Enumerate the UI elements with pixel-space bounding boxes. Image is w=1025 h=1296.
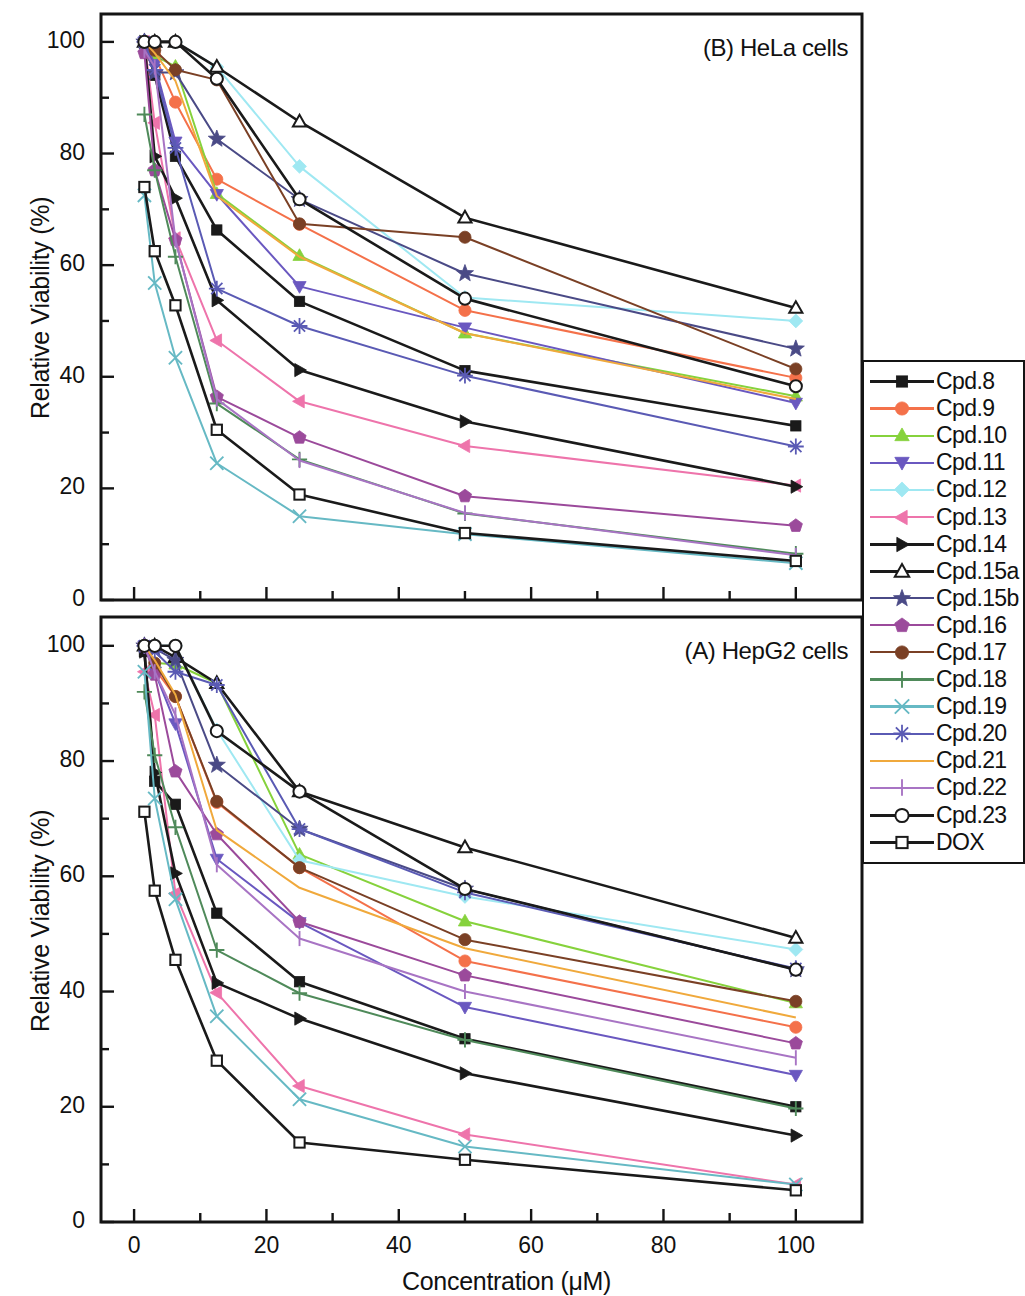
- legend-item-DOX[interactable]: DOX: [868, 829, 1023, 856]
- y-axis-tick-label: 0: [25, 1207, 85, 1234]
- x-axis-tick-label: 100: [766, 1232, 826, 1259]
- legend-marker-icon: [868, 558, 936, 585]
- legend-item-Cpd-15b[interactable]: Cpd.15b: [868, 585, 1023, 612]
- data-point: [211, 795, 223, 807]
- series-Cpd-10: [138, 639, 803, 1008]
- y-axis-tick-label: 100: [25, 631, 85, 658]
- data-point: [169, 764, 182, 777]
- legend-label: Cpd.16: [936, 612, 1007, 639]
- x-axis-title: Concentration (μM): [402, 1267, 611, 1296]
- legend-label: Cpd.12: [936, 476, 1007, 503]
- legend-marker-icon: [868, 774, 936, 801]
- legend-item-Cpd-13[interactable]: Cpd.13: [868, 503, 1023, 530]
- legend-label: DOX: [936, 829, 984, 856]
- y-axis-tick-label: 80: [25, 746, 85, 773]
- series-Cpd-17: [138, 640, 802, 1008]
- legend-marker-icon: [868, 693, 936, 720]
- data-point: [210, 1010, 223, 1023]
- data-point: [293, 862, 305, 874]
- data-point: [458, 968, 471, 981]
- legend-label: Cpd.8: [936, 368, 994, 395]
- legend-item-Cpd-20[interactable]: Cpd.20: [868, 720, 1023, 747]
- data-point: [295, 1012, 307, 1025]
- legend-label: Cpd.14: [936, 531, 1007, 558]
- panel-title-A: (A) HepG2 cells: [685, 637, 848, 665]
- series-Cpd-18: [137, 684, 804, 1116]
- legend-label: Cpd.17: [936, 639, 1007, 666]
- legend-item-Cpd-16[interactable]: Cpd.16: [868, 612, 1023, 639]
- series-line: [144, 646, 795, 970]
- data-point: [212, 1056, 222, 1066]
- y-axis-tick-label: 20: [25, 1092, 85, 1119]
- legend-marker-icon: [868, 720, 936, 747]
- legend-label: Cpd.23: [936, 802, 1007, 829]
- data-point: [459, 955, 471, 967]
- data-point: [149, 640, 161, 652]
- series-line: [144, 646, 795, 1027]
- series-Cpd-12: [137, 639, 802, 957]
- x-axis-tick-label: 0: [104, 1232, 164, 1259]
- legend-label: Cpd.22: [936, 774, 1007, 801]
- legend-item-Cpd-18[interactable]: Cpd.18: [868, 666, 1023, 693]
- legend-marker-icon: [868, 747, 936, 774]
- series-Cpd-19: [138, 665, 803, 1191]
- data-point: [170, 799, 180, 809]
- legend-item-Cpd-23[interactable]: Cpd.23: [868, 802, 1023, 829]
- legend-marker-icon: [868, 829, 936, 856]
- legend-label: Cpd.11: [936, 449, 1005, 476]
- series-DOX: [139, 807, 801, 1196]
- data-point: [790, 995, 802, 1007]
- data-point: [789, 943, 803, 957]
- data-point: [292, 986, 307, 1001]
- legend-marker-icon: [868, 368, 936, 395]
- data-point: [459, 934, 471, 946]
- legend-label: Cpd.19: [936, 693, 1007, 720]
- legend-marker-icon: [868, 666, 936, 693]
- legend-marker-icon: [868, 449, 936, 476]
- data-point: [791, 1185, 801, 1195]
- legend-item-Cpd-8[interactable]: Cpd.8: [868, 368, 1023, 395]
- legend-item-Cpd-14[interactable]: Cpd.14: [868, 531, 1023, 558]
- data-point: [459, 883, 471, 895]
- legend-item-Cpd-11[interactable]: Cpd.11: [868, 449, 1023, 476]
- legend-marker-icon: [868, 802, 936, 829]
- series-Cpd-13: [137, 665, 800, 1191]
- data-point: [790, 964, 802, 976]
- legend-label: Cpd.9: [936, 395, 994, 422]
- legend: Cpd.8Cpd.9Cpd.10Cpd.11Cpd.12Cpd.13Cpd.14…: [862, 360, 1025, 864]
- data-point: [212, 908, 222, 918]
- data-point: [460, 1067, 472, 1080]
- x-axis-tick-label: 60: [501, 1232, 561, 1259]
- data-point: [168, 664, 184, 680]
- x-axis-tick-label: 80: [633, 1232, 693, 1259]
- data-point: [150, 886, 160, 896]
- data-point: [209, 942, 224, 957]
- data-point: [211, 725, 223, 737]
- legend-label: Cpd.20: [936, 720, 1007, 747]
- data-point: [789, 1070, 802, 1082]
- data-point: [212, 976, 224, 989]
- data-point: [460, 1155, 470, 1165]
- series-line: [144, 646, 795, 970]
- data-point: [209, 677, 225, 693]
- data-point: [458, 1128, 470, 1141]
- legend-item-Cpd-19[interactable]: Cpd.19: [868, 693, 1023, 720]
- legend-item-Cpd-9[interactable]: Cpd.9: [868, 395, 1023, 422]
- legend-marker-icon: [868, 422, 936, 449]
- y-axis-title-A: Relative Viability (%): [26, 809, 55, 1031]
- legend-label: Cpd.21: [936, 747, 1007, 774]
- data-point: [790, 1021, 802, 1033]
- data-point: [293, 1093, 306, 1106]
- legend-item-Cpd-17[interactable]: Cpd.17: [868, 639, 1023, 666]
- x-axis-tick-label: 20: [236, 1232, 296, 1259]
- legend-item-Cpd-12[interactable]: Cpd.12: [868, 476, 1023, 503]
- legend-item-Cpd-22[interactable]: Cpd.22: [868, 774, 1023, 801]
- legend-label: Cpd.10: [936, 422, 1007, 449]
- data-point: [139, 807, 149, 817]
- series-line: [144, 812, 795, 1191]
- legend-item-Cpd-15a[interactable]: Cpd.15a: [868, 558, 1023, 585]
- legend-item-Cpd-21[interactable]: Cpd.21: [868, 747, 1023, 774]
- legend-item-Cpd-10[interactable]: Cpd.10: [868, 422, 1023, 449]
- data-point: [168, 820, 183, 835]
- data-point: [294, 1137, 304, 1147]
